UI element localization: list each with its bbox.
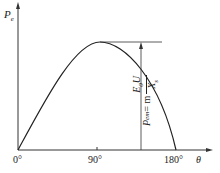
amplitude-arrow-icon	[139, 42, 143, 49]
x-tick-180: 180°	[164, 154, 183, 165]
y-axis-label: Pe	[4, 8, 14, 23]
x-axis-label: θ	[196, 154, 201, 165]
x-tick-90: 90°	[88, 154, 102, 165]
amplitude-formula: Pem = m E0U Xs	[132, 75, 161, 126]
x-axis-arrow-icon	[206, 148, 213, 152]
x-tick-0: 0°	[13, 154, 22, 165]
y-axis-arrow-icon	[16, 2, 20, 9]
diagram-graphics	[0, 0, 220, 173]
power-angle-diagram: Pe 0° 90° 180° θ Pem = m E0U Xs	[0, 0, 220, 173]
